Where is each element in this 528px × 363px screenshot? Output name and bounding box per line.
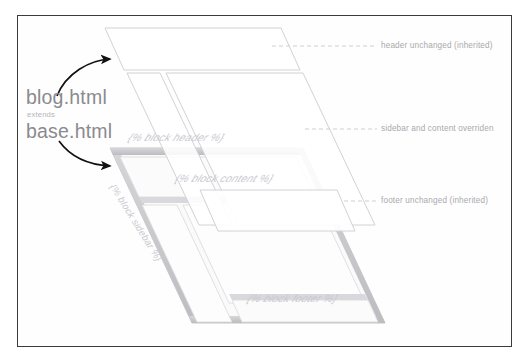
callout-label-footer: footer unchanged (inherited)	[381, 196, 488, 205]
block-label-footer: {% block footer %}	[245, 292, 342, 304]
child-template-name: blog.html	[26, 86, 107, 109]
parent-template-name: base.html	[26, 120, 112, 143]
callout-label-sidebar: sidebar and content overriden	[381, 124, 494, 133]
block-label-content: {% block content %}	[173, 172, 278, 184]
base-arrow	[59, 141, 110, 166]
block-label-header: {% block header %}	[126, 131, 229, 143]
callout-label-header: header unchanged (inherited)	[381, 41, 493, 50]
blog-footer-panel	[200, 190, 355, 231]
diagram-canvas: blog.html extends base.html {% block hea…	[0, 0, 528, 363]
relation-arrows	[57, 59, 110, 166]
extends-keyword: extends	[27, 110, 55, 119]
blog-header-panel	[105, 28, 300, 70]
